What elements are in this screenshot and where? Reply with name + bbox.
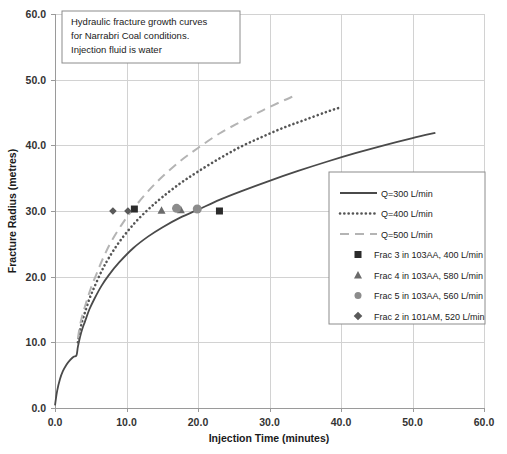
y-tick-label: 60.0: [26, 8, 47, 20]
legend-entry-label: Frac 4 in 103AA, 580 L/min: [374, 271, 483, 281]
y-axis-title: Fracture Radius (metres): [6, 149, 18, 273]
series-curve: [78, 97, 293, 339]
data-point-marker: [109, 207, 117, 215]
x-tick-label: 0.0: [48, 416, 63, 428]
y-tick-label: 40.0: [26, 139, 47, 151]
legend-entry-label: Frac 5 in 103AA, 560 L/min: [374, 291, 483, 301]
x-tick-label: 10.0: [116, 416, 137, 428]
y-tick-label: 50.0: [26, 74, 47, 86]
annotation-line-3: Injection fluid is water: [71, 44, 162, 55]
data-point-marker: [131, 206, 138, 213]
data-point-marker: [216, 208, 223, 215]
legend: Q=300 L/minQ=400 L/minQ=500 L/minFrac 3 …: [329, 172, 485, 324]
legend-entry-label: Frac 3 in 103AA, 400 L/min: [374, 250, 483, 260]
legend-marker-swatch: [355, 292, 362, 299]
legend-entry-label: Q=300 L/min: [381, 189, 433, 199]
legend-entry-label: Q=500 L/min: [381, 230, 433, 240]
x-tick-labels: 0.010.020.030.040.050.060.0: [48, 416, 495, 428]
x-tick-label: 50.0: [402, 416, 423, 428]
y-tick-label: 20.0: [26, 271, 47, 283]
fracture-growth-chart: 0.010.020.030.040.050.060.0 0.010.020.03…: [0, 0, 507, 454]
y-tick-label: 0.0: [31, 402, 46, 414]
annotation-line-2: for Narrabri Coal conditions.: [71, 30, 189, 41]
annotation-line-1: Hydraulic fracture growth curves: [71, 16, 207, 27]
x-tick-label: 20.0: [188, 416, 209, 428]
annotation-box: Hydraulic fracture growth curves for Nar…: [62, 11, 240, 63]
x-tick-label: 40.0: [331, 416, 352, 428]
legend-marker-swatch: [355, 251, 362, 258]
x-tick-label: 60.0: [474, 416, 495, 428]
y-tick-label: 30.0: [26, 205, 47, 217]
chart-container: 0.010.020.030.040.050.060.0 0.010.020.03…: [0, 0, 507, 454]
data-point-marker: [193, 205, 202, 214]
data-point-marker: [158, 206, 166, 214]
data-point-marker: [172, 204, 181, 213]
x-axis-title: Injection Time (minutes): [209, 432, 330, 444]
legend-entry-label: Q=400 L/min: [381, 209, 433, 219]
y-tick-labels: 0.010.020.030.040.050.060.0: [26, 8, 47, 414]
legend-entry-label: Frac 2 in 101AM, 520 L/min: [374, 312, 485, 322]
series-curve: [78, 107, 341, 342]
y-tick-label: 10.0: [26, 336, 47, 348]
x-tick-label: 30.0: [259, 416, 280, 428]
